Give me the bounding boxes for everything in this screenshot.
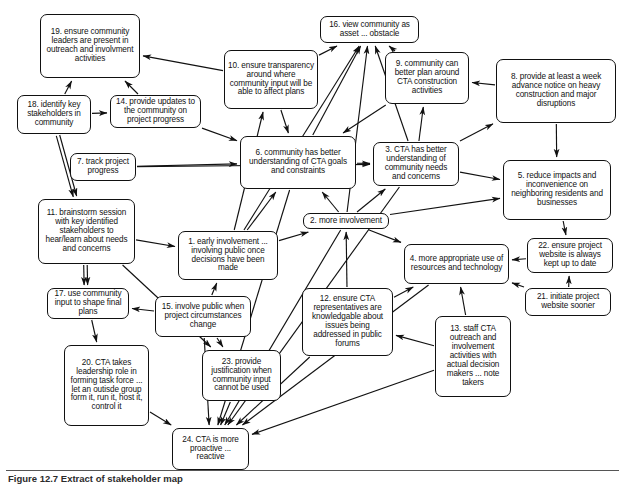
node-label-9: 9. community can better plan around CTA … [389,60,465,95]
node-label-16: 16. view community as asset ... obstacle [324,21,415,39]
edge-15-to-23 [217,338,223,347]
node-label-6: 6. community has better understanding of… [244,149,352,176]
figure-caption: Figure 12.7 Extract of stakeholder map [8,473,608,484]
edge-1-to-6 [247,192,276,230]
node-23[interactable]: 23. provide justification when community… [202,350,281,401]
node-20[interactable]: 20. CTA takes leadership role in forming… [64,345,149,426]
node-10[interactable]: 10. ensure transparency around where com… [224,50,318,109]
edge-9-to-16 [389,46,395,51]
node-label-20: 20. CTA takes leadership role in forming… [68,359,145,412]
node-label-5: 5. reduce impacts and inconvenience on n… [507,172,607,207]
node-18[interactable]: 18. identify key stakeholders in communi… [17,95,91,134]
edge-2-to-6 [322,192,338,212]
node-label-18: 18. identify key stakeholders in communi… [21,101,87,128]
edge-10-to-6 [281,110,288,133]
edge-12-to-2 [346,232,347,287]
edge-18-to-19 [65,81,72,94]
node-label-19: 19. ensure community leaders are present… [44,28,136,63]
node-19[interactable]: 19. ensure community leaders are present… [40,14,140,78]
edge-5-to-22 [563,221,566,235]
node-17[interactable]: 17. use community input to shape final p… [47,288,129,319]
edge-10-to-16 [319,46,337,55]
node-8[interactable]: 8. provide at least a week advance notic… [496,59,616,123]
node-4[interactable]: 4. more appropriate use of resources and… [404,244,509,284]
node-label-17: 17. use community input to shape final p… [51,290,125,317]
edge-2-to-5 [390,198,500,214]
edge-3-to-9 [419,107,423,141]
node-2[interactable]: 2. more involvement [303,213,389,229]
node-15[interactable]: 15. involve public when project circumst… [155,296,251,337]
edge-17-to-20 [92,320,97,342]
edge-11-to-1 [136,240,175,247]
edge-2-to-3 [357,189,385,212]
edge-14-to-19 [125,81,138,94]
node-label-11: 11. brainstorm session with key identifi… [42,209,131,253]
node-label-24: 24. CTA is more proactive ... reactive [176,436,245,463]
edge-17-to-15 [132,308,154,310]
edge-13-to-4 [461,287,466,315]
edge-23-to-24 [221,402,231,425]
node-11[interactable]: 11. brainstorm session with key identifi… [38,199,135,264]
node-label-10: 10. ensure transparency around where com… [228,62,314,97]
caption-rule [6,470,619,471]
edge-15-to-1 [212,283,217,295]
edge-6-to-16 [313,46,361,135]
node-label-1: 1. early involvement ... involving publi… [182,238,274,273]
edge-3-to-5 [460,172,500,179]
node-label-22: 22. ensure project website is always kep… [531,242,609,269]
node-14[interactable]: 14. provide updates to the community on … [110,95,201,128]
edge-8-to-9 [472,83,495,85]
node-3[interactable]: 3. CTA has better understanding of commu… [373,142,459,186]
edge-13-to-12 [396,335,434,345]
node-label-13: 13. staff CTA outreach and involvement a… [439,325,507,387]
node-label-12: 12. ensure CTA representatives are knowl… [306,295,389,348]
edge-9-to-6 [343,105,386,133]
node-label-21: 21. initiate project website sooner [529,293,607,311]
edge-8-to-3 [460,124,493,141]
node-label-15: 15. involve public when project circumst… [159,303,247,330]
edge-14-to-6 [202,128,237,141]
edge-20-to-24 [150,412,171,425]
edge-21-to-4 [512,283,524,287]
edge-7-to-6 [137,164,237,166]
node-9[interactable]: 9. community can better plan around CTA … [385,52,469,104]
node-label-4: 4. more appropriate use of resources and… [408,255,505,273]
node-label-3: 3. CTA has better understanding of commu… [377,146,455,181]
node-1[interactable]: 1. early involvement ... involving publi… [178,231,278,280]
node-13[interactable]: 13. staff CTA outreach and involvement a… [435,316,511,397]
edge-10-to-19 [143,56,223,71]
node-21[interactable]: 21. initiate project website sooner [525,288,611,316]
edge-22-to-4 [512,259,526,260]
node-22[interactable]: 22. ensure project website is always kep… [527,238,613,273]
node-label-7: 7. track project progress [74,158,132,176]
edge-1-to-2 [279,232,308,241]
node-label-14: 14. provide updates to the community on … [114,98,197,125]
node-label-8: 8. provide at least a week advance notic… [500,73,612,108]
node-7[interactable]: 7. track project progress [70,153,136,181]
node-24[interactable]: 24. CTA is more proactive ... reactive [172,428,249,470]
node-12[interactable]: 12. ensure CTA representatives are knowl… [302,288,393,356]
node-16[interactable]: 16. view community as asset ... obstacle [320,16,419,43]
node-label-2: 2. more involvement [307,217,385,226]
edge-12-to-4 [394,287,413,297]
edge-2-to-4 [369,230,401,242]
node-5[interactable]: 5. reduce impacts and inconvenience on n… [503,160,611,220]
node-6[interactable]: 6. community has better understanding of… [240,136,356,189]
node-label-23: 23. provide justification when community… [206,358,277,393]
